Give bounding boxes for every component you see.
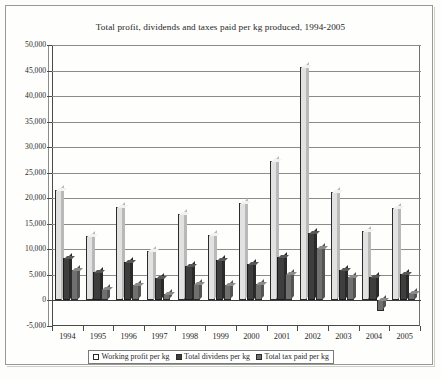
y-tick-label: 15,000 (0, 219, 46, 228)
bar-group-1999 (208, 45, 231, 326)
bar-1998-series-0 (178, 214, 185, 300)
bar-2002-series-2 (316, 248, 323, 301)
chart-title: Total profit, dividends and taxes paid p… (0, 22, 441, 32)
bar-top-face (401, 272, 412, 275)
scanned-page: Total profit, dividends and taxes paid p… (0, 0, 441, 380)
bar-1995-series-2 (101, 289, 108, 301)
x-tick-mark (205, 326, 206, 331)
x-tick-mark (389, 326, 390, 331)
bar-group-1995 (86, 45, 109, 326)
x-tick-label-1996: 1996 (113, 332, 145, 341)
y-tick-label: 30,000 (0, 142, 46, 151)
x-tick-label-1997: 1997 (143, 332, 175, 341)
bar-2001-series-2 (285, 274, 292, 300)
bar-1999-series-1 (216, 260, 223, 301)
bar-top-face (225, 283, 236, 286)
x-tick-label-2000: 2000 (235, 332, 267, 341)
bar-1996-series-2 (132, 285, 139, 300)
bar-group-1994 (55, 45, 78, 326)
bar-1996-series-1 (124, 262, 131, 301)
bar-top-face (332, 190, 343, 193)
bar-top-face (248, 262, 259, 265)
bar-2004-series-0 (362, 231, 369, 300)
bar-top-face (56, 188, 67, 191)
x-tick-mark (175, 326, 176, 331)
bar-series-container (52, 45, 420, 326)
bar-2005-series-1 (400, 274, 407, 301)
bar-top-face (217, 258, 228, 261)
bar-group-2004 (362, 45, 385, 326)
x-tick-mark (297, 326, 298, 331)
bar-top-face (271, 159, 282, 162)
bar-1996-series-0 (116, 207, 123, 300)
bar-1994-series-2 (71, 270, 78, 301)
x-tick-mark (52, 326, 53, 331)
bar-top-face (409, 291, 420, 294)
bar-top-face (72, 268, 83, 271)
x-tick-label-2004: 2004 (358, 332, 390, 341)
legend-item-2[interactable]: Total tax paid per kg (256, 352, 329, 361)
legend-item-0[interactable]: Working profit per kg (93, 352, 170, 361)
bar-2003-series-2 (347, 277, 354, 301)
bar-2001-series-0 (270, 161, 277, 300)
x-tick-label-2002: 2002 (297, 332, 329, 341)
y-tick-label: 45,000 (0, 66, 46, 75)
bar-top-face (309, 231, 320, 234)
bar-group-2005 (392, 45, 415, 326)
x-tick-label-1994: 1994 (51, 332, 83, 341)
bar-top-face (133, 283, 144, 286)
bar-top-face (393, 206, 404, 209)
x-tick-mark (113, 326, 114, 331)
bar-2002-series-1 (308, 233, 315, 300)
bar-2004-series-1 (369, 277, 376, 300)
x-tick-label-2005: 2005 (389, 332, 421, 341)
bar-top-face (186, 264, 197, 267)
bar-top-face (102, 287, 113, 290)
legend-label: Total dividens per kg (184, 352, 250, 361)
legend-label: Total tax paid per kg (264, 352, 328, 361)
bar-1999-series-0 (208, 235, 215, 300)
bar-2005-series-0 (392, 208, 399, 300)
bar-2000-series-2 (255, 284, 262, 300)
x-tick-label-2003: 2003 (327, 332, 359, 341)
bar-group-1998 (178, 45, 201, 326)
bar-top-face (240, 201, 251, 204)
bar-2003-series-0 (331, 192, 338, 300)
bar-top-face (286, 272, 297, 275)
bar-top-face (256, 282, 267, 285)
legend-swatch-icon (256, 354, 262, 360)
bar-top-face (164, 292, 175, 295)
bar-2001-series-1 (277, 257, 284, 301)
legend-label: Working profit per kg (102, 352, 170, 361)
x-tick-mark (236, 326, 237, 331)
bar-1997-series-1 (155, 278, 162, 300)
y-tick-label: 10,000 (0, 244, 46, 253)
x-tick-mark (328, 326, 329, 331)
bar-2003-series-1 (339, 270, 346, 300)
bar-side-face (322, 243, 325, 300)
bar-top-face (340, 268, 351, 271)
bar-top-face (348, 275, 359, 278)
legend-swatch-icon (93, 354, 99, 360)
bar-top-face (278, 255, 289, 258)
bar-2000-series-1 (247, 264, 254, 301)
bar-2002-series-0 (300, 67, 307, 300)
bar-top-face (156, 276, 167, 279)
bar-1997-series-2 (163, 294, 170, 300)
bar-top-face (125, 260, 136, 263)
y-tick-label: 20,000 (0, 193, 46, 202)
bar-group-1996 (116, 45, 139, 326)
legend-item-1[interactable]: Total dividens per kg (176, 352, 250, 361)
bar-1994-series-1 (63, 258, 70, 301)
y-tick-label: 5,000 (0, 270, 46, 279)
y-tick-label: -5,000 (0, 321, 46, 330)
bar-2005-series-2 (408, 293, 415, 301)
bar-top-face (87, 234, 98, 237)
bar-1995-series-1 (93, 272, 100, 301)
bar-1998-series-2 (193, 284, 200, 301)
bar-group-2001 (270, 45, 293, 326)
bar-group-2002 (300, 45, 323, 326)
x-tick-label-1998: 1998 (174, 332, 206, 341)
x-tick-label-1995: 1995 (82, 332, 114, 341)
bar-1995-series-0 (86, 236, 93, 300)
